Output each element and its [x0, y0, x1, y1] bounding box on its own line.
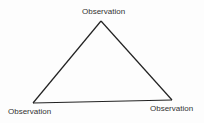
node-label-bottom-right: Observation — [150, 104, 193, 113]
edge-bottom-right-top — [101, 21, 172, 100]
edge-top-bottom-left — [33, 21, 101, 103]
node-label-bottom-left: Observation — [8, 107, 51, 116]
node-label-top: Observation — [82, 7, 125, 16]
triangle-diagram: Observation Observation Observation — [0, 0, 204, 123]
edge-bottom-left-bottom-right — [33, 100, 172, 103]
